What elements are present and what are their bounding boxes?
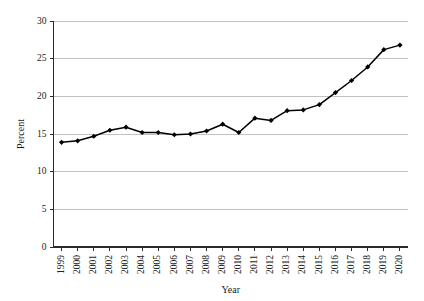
y-tick-label-10: 10: [37, 166, 47, 176]
y-tick-label-30: 30: [37, 16, 47, 26]
data-point-2014[interactable]: [301, 107, 306, 112]
x-tick-label-2015: 2015: [314, 255, 324, 274]
x-tick-label-2007: 2007: [185, 255, 195, 274]
data-point-2001[interactable]: [91, 134, 96, 139]
x-tick-label-2017: 2017: [346, 255, 356, 274]
x-tick-label-2008: 2008: [201, 255, 211, 274]
x-axis-title: Year: [222, 284, 241, 295]
x-tick-label-2011: 2011: [249, 255, 259, 274]
data-point-2020[interactable]: [397, 43, 402, 48]
x-tick-label-2014: 2014: [297, 255, 307, 274]
data-point-2008[interactable]: [204, 128, 209, 133]
data-point-2009[interactable]: [220, 122, 225, 127]
x-tick-label-2012: 2012: [265, 255, 275, 274]
data-point-2003[interactable]: [123, 125, 128, 130]
y-tick-label-25: 25: [37, 53, 47, 63]
series-percent: [59, 43, 403, 145]
line-chart: 0510152025301999200020012002200320042005…: [0, 0, 424, 301]
x-axis-ticks: 1999200020012002200320042005200620072008…: [56, 247, 404, 274]
y-axis-title: Percent: [15, 119, 26, 149]
x-tick-label-2009: 2009: [217, 255, 227, 274]
series-line-percent: [62, 45, 400, 142]
y-tick-label-15: 15: [37, 129, 47, 139]
x-tick-label-2016: 2016: [330, 255, 340, 274]
x-tick-label-2006: 2006: [169, 255, 179, 274]
y-axis-ticks: 051015202530: [37, 16, 54, 252]
data-point-2000[interactable]: [75, 138, 80, 143]
x-tick-label-2004: 2004: [136, 255, 146, 274]
x-tick-label-2003: 2003: [120, 255, 130, 274]
x-tick-label-2018: 2018: [362, 255, 372, 274]
y-tick-label-20: 20: [37, 91, 47, 101]
data-point-1999[interactable]: [59, 140, 64, 145]
gridlines: [54, 21, 409, 209]
data-point-2002[interactable]: [107, 128, 112, 133]
x-tick-label-1999: 1999: [56, 255, 66, 274]
y-tick-label-5: 5: [42, 204, 47, 214]
data-point-2007[interactable]: [188, 131, 193, 136]
y-tick-label-0: 0: [42, 242, 47, 252]
x-tick-label-2005: 2005: [152, 255, 162, 274]
data-point-2006[interactable]: [172, 132, 177, 137]
x-tick-label-2019: 2019: [378, 255, 388, 274]
x-tick-label-2010: 2010: [233, 255, 243, 274]
x-tick-label-2020: 2020: [394, 255, 404, 274]
x-tick-label-2001: 2001: [88, 255, 98, 274]
x-tick-label-2000: 2000: [72, 255, 82, 274]
x-tick-label-2013: 2013: [281, 255, 291, 274]
chart-canvas: 0510152025301999200020012002200320042005…: [0, 0, 424, 301]
x-tick-label-2002: 2002: [104, 255, 114, 274]
